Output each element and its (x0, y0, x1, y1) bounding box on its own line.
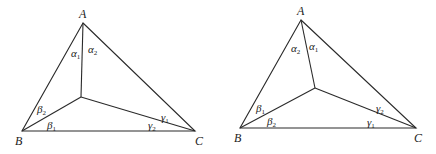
left-angle-alpha1: α1 (71, 47, 81, 61)
right-cevian-c (315, 88, 416, 128)
left-triangle-figure: A B C α1 α2 β2 β1 γ1 γ2 (15, 7, 204, 148)
left-vertex-a: A (78, 7, 87, 21)
right-angle-gamma1: γ1 (367, 116, 375, 130)
right-cevian-a (301, 20, 315, 88)
triangle-diagrams: A B C α1 α2 β2 β1 γ1 γ2 A B C α2 α1 β1 β… (0, 0, 436, 154)
right-triangle-figure: A B C α2 α1 β1 β2 γ2 γ1 (234, 4, 423, 145)
right-angle-gamma2: γ2 (376, 102, 384, 116)
left-triangle (22, 23, 195, 131)
left-vertex-b: B (15, 134, 23, 148)
left-cevian-a (81, 23, 83, 97)
left-angle-alpha2: α2 (88, 43, 98, 57)
right-triangle (240, 20, 416, 128)
left-angle-beta2: β2 (36, 103, 46, 117)
right-vertex-a: A (296, 4, 305, 18)
right-vertex-c: C (414, 131, 423, 145)
right-vertex-b: B (234, 131, 242, 145)
left-angle-gamma2: γ2 (148, 119, 156, 133)
right-angle-alpha1: α1 (309, 40, 319, 54)
left-vertex-c: C (195, 134, 204, 148)
left-angle-beta1: β1 (46, 119, 56, 133)
left-angle-gamma1: γ1 (161, 111, 169, 125)
right-angle-alpha2: α2 (291, 42, 301, 56)
right-angle-beta1: β1 (255, 102, 265, 116)
right-angle-beta2: β2 (266, 115, 276, 129)
